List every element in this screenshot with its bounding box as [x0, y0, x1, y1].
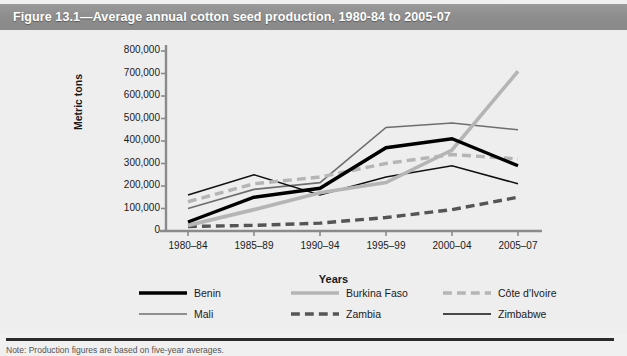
chart-legend: BeninBurkina FasoCôte d'IvoireMaliZambia…	[0, 282, 627, 324]
legend-swatch	[138, 287, 188, 299]
chart-canvas: Metric tons Years 0100,000200,000300,000…	[0, 30, 627, 334]
figure-title-bar: Figure 13.1—Average annual cotton seed p…	[0, 4, 627, 30]
legend-item: Côte d'Ivoire	[442, 282, 594, 303]
footer-divider	[6, 338, 614, 341]
legend-swatch	[138, 308, 188, 320]
legend-label: Zimbabwe	[498, 308, 546, 320]
legend-swatch	[290, 308, 340, 320]
line-chart-plot	[0, 30, 627, 280]
figure-title: Figure 13.1—Average annual cotton seed p…	[0, 10, 451, 24]
legend-label: Burkina Faso	[346, 287, 408, 299]
legend-label: Mali	[194, 308, 213, 320]
legend-label: Zambia	[346, 308, 381, 320]
legend-swatch	[442, 287, 492, 299]
legend-swatch	[290, 287, 340, 299]
series-line	[188, 123, 518, 209]
legend-item: Zimbabwe	[442, 303, 594, 324]
figure-container: Figure 13.1—Average annual cotton seed p…	[0, 0, 627, 356]
figure-note: Note: Production figures are based on fi…	[6, 345, 618, 355]
legend-item: Benin	[138, 282, 290, 303]
legend-item: Mali	[138, 303, 290, 324]
legend-item: Burkina Faso	[290, 282, 442, 303]
legend-item: Zambia	[290, 303, 442, 324]
legend-label: Benin	[194, 287, 221, 299]
legend-label: Côte d'Ivoire	[498, 287, 557, 299]
legend-swatch	[442, 308, 492, 320]
